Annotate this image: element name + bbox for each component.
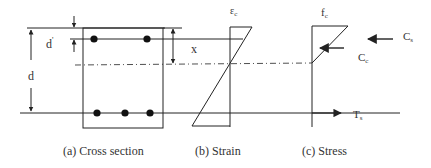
d-label: d xyxy=(28,69,34,83)
reinforcement-bars xyxy=(90,35,153,116)
d-prime-label: d' xyxy=(46,36,54,51)
epsilon-c-label: εc xyxy=(230,5,237,18)
beam-section-diagram: d' d x εc fc Cs Cc Ts (a) Cross section … xyxy=(0,0,431,168)
bottom-bar-3 xyxy=(146,109,153,116)
caption-strain: (b) Strain xyxy=(195,144,241,158)
ts-label: Ts xyxy=(353,108,363,122)
fc-label: fc xyxy=(321,6,328,20)
neutral-axis-line xyxy=(75,63,312,65)
strain-diagram xyxy=(192,27,252,127)
stress-block-slope xyxy=(312,26,348,63)
cross-section xyxy=(20,16,400,128)
bottom-bar-2 xyxy=(121,109,128,116)
cs-label: Cs xyxy=(403,30,413,44)
top-bar-1 xyxy=(90,35,97,42)
caption-cross-section: (a) Cross section xyxy=(63,144,144,158)
strain-profile xyxy=(192,27,252,126)
x-label: x xyxy=(191,42,197,56)
cc-label: Cc xyxy=(358,51,368,65)
bottom-bar-1 xyxy=(93,109,100,116)
top-bar-2 xyxy=(143,35,150,42)
caption-stress: (c) Stress xyxy=(302,144,347,158)
